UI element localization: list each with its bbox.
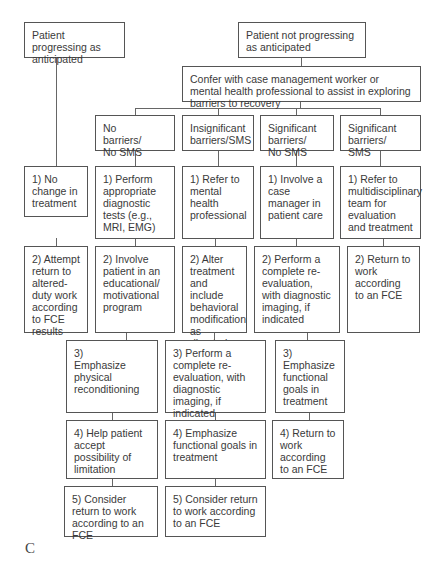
category-no-barriers: No barriers/ No SMS — [95, 115, 175, 151]
connector — [380, 150, 381, 166]
no-barriers-step-1: 1) Perform appropriate diagnostic tests … — [95, 166, 175, 239]
no-barriers-step-4: 4) Help patient accept possibility of li… — [66, 420, 158, 479]
patient-not-progressing-box: Patient not progressing as anticipated — [238, 22, 366, 58]
no-barriers-step-2: 2) Involve patient in an educational/ mo… — [95, 246, 175, 333]
connector — [112, 412, 113, 420]
connector — [300, 101, 301, 108]
category-insignificant-barriers: Insignificant barriers/SMS — [182, 115, 254, 151]
panel-label: C — [25, 540, 35, 557]
connector — [215, 478, 216, 486]
connector — [218, 150, 219, 166]
connector — [309, 412, 310, 420]
significant-no-sms-step-2: 2) Perform a complete re-evaluation, wit… — [254, 246, 340, 333]
connector — [383, 238, 384, 246]
insignificant-step-5: 5) Consider return to work according to … — [165, 486, 266, 537]
patient-progressing-box: Patient progressing as anticipated — [24, 22, 125, 58]
category-significant-sms: Significant barriers/ SMS — [340, 115, 421, 151]
connector — [56, 57, 57, 166]
connector — [215, 238, 216, 246]
connector — [307, 332, 308, 340]
progressing-step-2: 2) Attempt return to altered-duty work a… — [24, 246, 88, 333]
no-barriers-step-3: 3) Emphasize physical reconditioning — [66, 340, 158, 413]
connector — [218, 108, 219, 115]
no-barriers-step-5: 5) Consider return to work according to … — [64, 486, 158, 537]
significant-no-sms-step-4: 4) Return to work according to an FCE — [272, 420, 344, 479]
connector — [380, 108, 381, 115]
connector — [135, 108, 136, 115]
connector — [296, 238, 297, 246]
connector — [112, 478, 113, 486]
progressing-step-1: 1) No change in treatment — [24, 166, 88, 217]
significant-no-sms-step-3: 3) Emphasize functional goals in treatme… — [275, 340, 345, 413]
insignificant-step-4: 4) Emphasize functional goals in treatme… — [165, 420, 266, 479]
category-significant-no-sms: Significant barriers/ No SMS — [260, 115, 334, 151]
significant-sms-step-1: 1) Refer to multidisciplinary team for e… — [340, 166, 421, 239]
insignificant-step-1: 1) Refer to mental health professional — [182, 166, 254, 239]
connector — [296, 108, 297, 115]
insignificant-step-2: 2) Alter treatment and include behaviora… — [182, 246, 247, 333]
connector — [56, 238, 57, 246]
connector — [215, 412, 216, 420]
significant-sms-step-2: 2) Return to work according to an FCE — [347, 246, 420, 333]
confer-box: Confer with case management worker or me… — [182, 66, 421, 102]
significant-no-sms-step-1: 1) Involve a case manager in patient car… — [260, 166, 334, 239]
insignificant-step-3: 3) Perform a complete re-evaluation, wit… — [165, 340, 266, 413]
connector — [301, 58, 302, 66]
connector — [135, 238, 136, 246]
connector — [126, 332, 127, 340]
